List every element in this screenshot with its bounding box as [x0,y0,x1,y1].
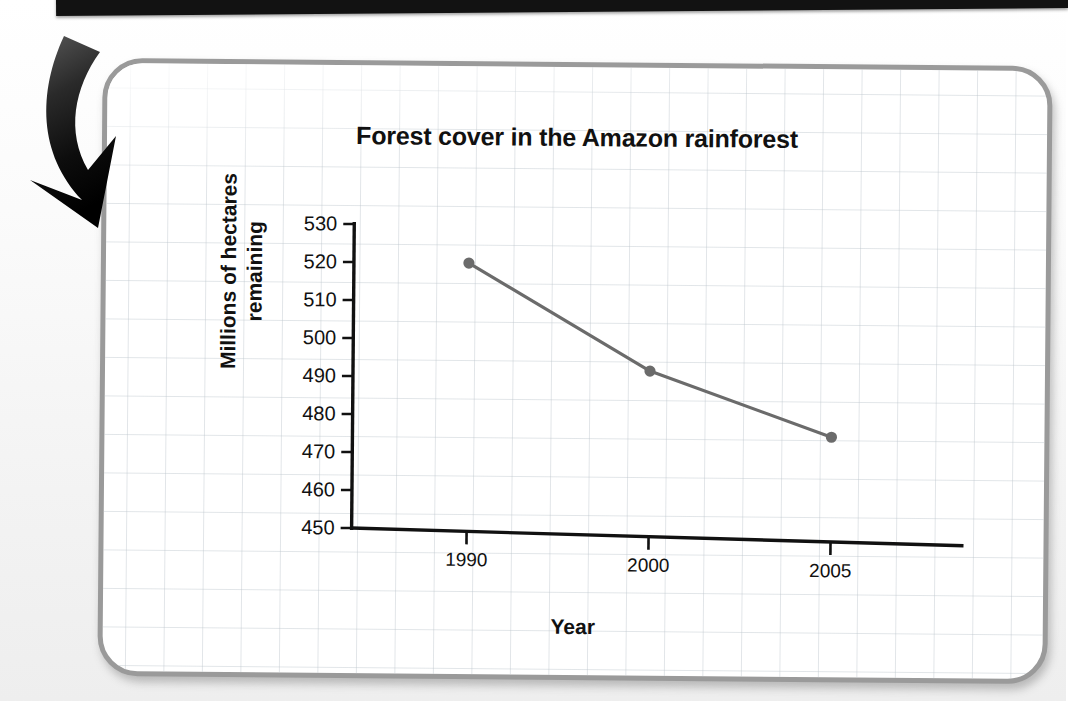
data-series-group [462,257,839,442]
x-axis-line [352,528,964,546]
data-point-marker [463,257,474,268]
axes-group [340,222,966,556]
line-chart: Forest cover in the Amazon rainforest Mi… [102,63,1047,679]
graph-card: Forest cover in the Amazon rainforest Mi… [97,58,1052,684]
data-point-marker [826,432,837,443]
series-line [467,263,832,437]
data-point-marker [644,365,655,376]
plot-svg [102,63,1047,679]
